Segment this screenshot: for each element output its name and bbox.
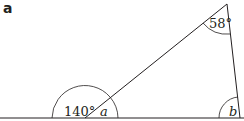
angle-a-label: a [100,104,108,119]
triangle-side-left [85,4,227,118]
exterior-angle-label: 140° [64,104,95,119]
angle-b-label: b [229,104,237,119]
triangle-diagram: a 140° a 58° b [0,0,244,121]
part-label: a [3,0,12,16]
top-angle-label: 58° [209,16,232,31]
angle-a-arc [110,97,118,118]
